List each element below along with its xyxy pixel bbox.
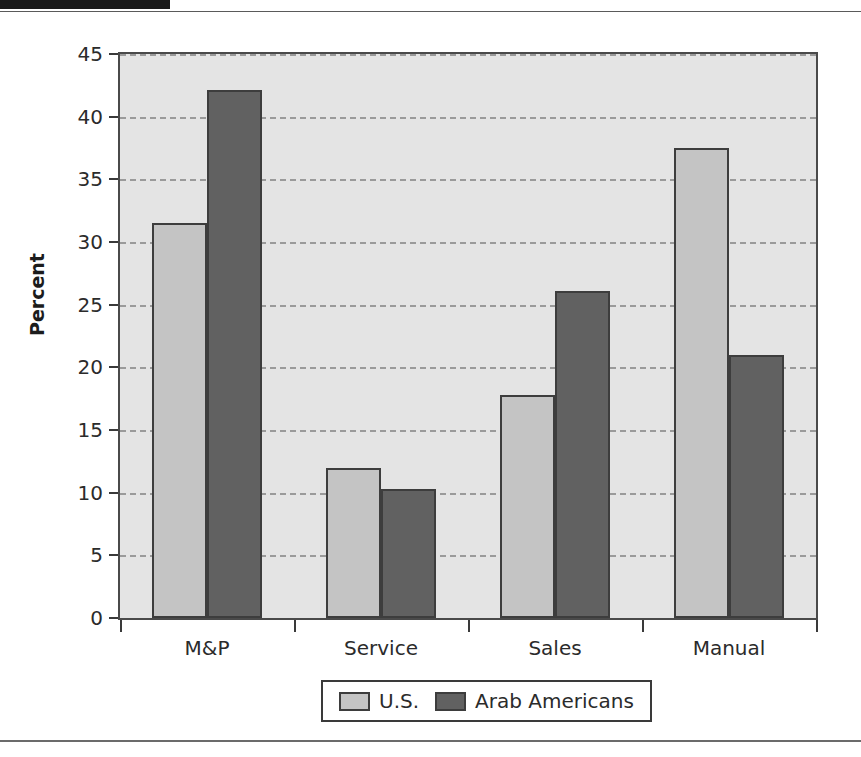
x-axis-category-label-service: Service: [344, 636, 418, 660]
y-axis-tick-mark: [109, 304, 118, 306]
legend-item-u-s-: U.S.: [339, 689, 419, 713]
y-axis-tick-label: 30: [59, 232, 103, 252]
x-axis-category-label-m-p: M&P: [185, 636, 230, 660]
bar-manual-arab-americans: [729, 355, 784, 618]
legend-swatch-icon: [435, 692, 466, 711]
x-axis-category-label-sales: Sales: [528, 636, 581, 660]
y-axis-tick-mark: [109, 53, 118, 55]
chart-legend: U.S.Arab Americans: [321, 680, 652, 722]
bar-service-arab-americans: [381, 489, 436, 618]
bar-m-p-u-s-: [152, 223, 207, 618]
y-axis-tick-label: 25: [59, 295, 103, 315]
y-axis-title: Percent: [26, 253, 48, 336]
legend-swatch-icon: [339, 692, 370, 711]
y-axis-tick-mark: [109, 617, 118, 619]
x-axis-tick-mark: [120, 620, 122, 632]
y-axis-tick-mark: [109, 492, 118, 494]
y-axis-tick-label: 10: [59, 483, 103, 503]
bar-sales-u-s-: [500, 395, 555, 618]
bar-sales-arab-americans: [555, 291, 610, 618]
x-axis-tick-mark: [642, 620, 644, 632]
bottom-divider-rule: [0, 740, 861, 742]
plot-area: [120, 54, 816, 618]
page-header-black-bar: [0, 0, 170, 9]
y-axis-tick-label: 0: [59, 608, 103, 628]
bar-chart-figure: Percent U.S.Arab Americans 0510152025303…: [0, 14, 861, 734]
legend-label: U.S.: [379, 689, 419, 713]
y-axis-tick-label: 40: [59, 107, 103, 127]
y-axis-tick-mark: [109, 429, 118, 431]
x-axis-tick-mark: [468, 620, 470, 632]
plot-frame: [118, 52, 818, 620]
legend-item-arab-americans: Arab Americans: [435, 689, 634, 713]
y-axis-tick-mark: [109, 116, 118, 118]
y-axis-tick-label: 45: [59, 44, 103, 64]
gridline: [120, 54, 816, 56]
bar-manual-u-s-: [674, 148, 729, 618]
y-axis-tick-label: 5: [59, 545, 103, 565]
x-axis-category-label-manual: Manual: [693, 636, 766, 660]
y-axis-tick-label: 35: [59, 169, 103, 189]
x-axis-tick-mark: [816, 620, 818, 632]
top-divider-rule: [0, 11, 861, 12]
y-axis-tick-mark: [109, 366, 118, 368]
legend-label: Arab Americans: [475, 689, 634, 713]
y-axis-tick-label: 15: [59, 420, 103, 440]
bar-service-u-s-: [326, 468, 381, 618]
y-axis-tick-mark: [109, 178, 118, 180]
x-axis-tick-mark: [294, 620, 296, 632]
y-axis-tick-mark: [109, 554, 118, 556]
bar-m-p-arab-americans: [207, 90, 262, 618]
y-axis-tick-mark: [109, 241, 118, 243]
y-axis-tick-label: 20: [59, 357, 103, 377]
